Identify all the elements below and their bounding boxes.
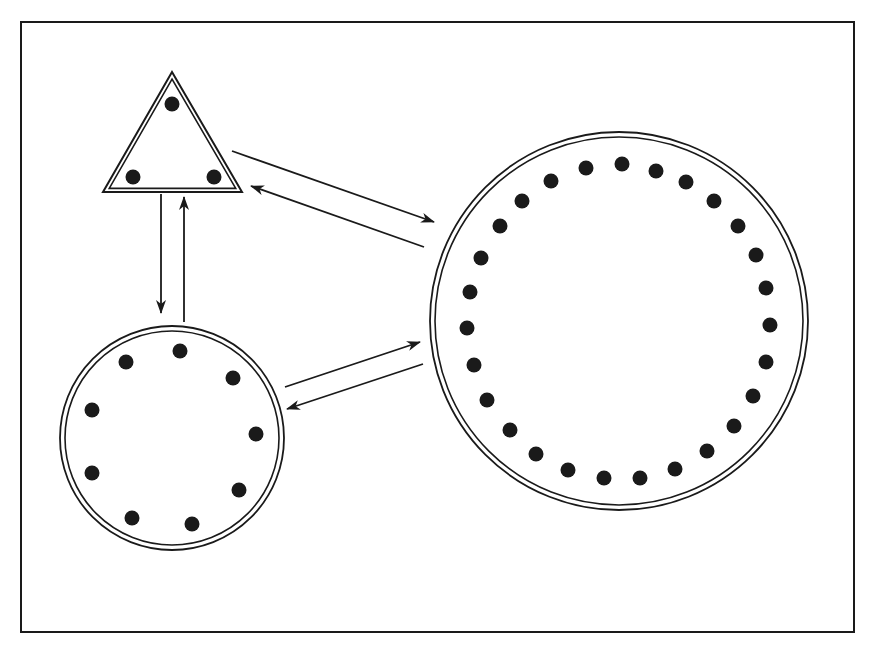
dot (763, 318, 778, 333)
dot (119, 355, 134, 370)
dot (503, 423, 518, 438)
dot (707, 194, 722, 209)
dot (727, 419, 742, 434)
dot (668, 462, 683, 477)
dot (746, 389, 761, 404)
dot (467, 358, 482, 373)
dot (226, 371, 241, 386)
dot (165, 97, 180, 112)
dot (544, 174, 559, 189)
arrow-large-circle-to-small-circle (287, 364, 423, 409)
dot (493, 219, 508, 234)
dot (731, 219, 746, 234)
dot (649, 164, 664, 179)
dot (480, 393, 495, 408)
outer-triangle (103, 72, 242, 192)
node-triangle (103, 72, 242, 192)
dot (679, 175, 694, 190)
dot (125, 511, 140, 526)
dot (463, 285, 478, 300)
dot (615, 157, 630, 172)
dot (85, 466, 100, 481)
dot (185, 517, 200, 532)
arrow-large-circle-to-triangle (251, 186, 424, 247)
dot (633, 471, 648, 486)
dot (207, 170, 222, 185)
network-diagram (0, 0, 875, 648)
arrow-triangle-to-large-circle (232, 151, 434, 222)
dot (474, 251, 489, 266)
node-group (60, 72, 808, 550)
dot (515, 194, 530, 209)
dot (579, 161, 594, 176)
node-small-circle (60, 326, 284, 550)
dot (561, 463, 576, 478)
dot (700, 444, 715, 459)
dot (759, 355, 774, 370)
dot (529, 447, 544, 462)
dot (126, 170, 141, 185)
dot (249, 427, 264, 442)
outer-ring (430, 132, 808, 510)
dot (759, 281, 774, 296)
dot (597, 471, 612, 486)
dot (232, 483, 247, 498)
dot (460, 321, 475, 336)
arrow-small-circle-to-large-circle (285, 342, 420, 387)
dot (85, 403, 100, 418)
dot (173, 344, 188, 359)
node-large-circle (430, 132, 808, 510)
dot (749, 248, 764, 263)
